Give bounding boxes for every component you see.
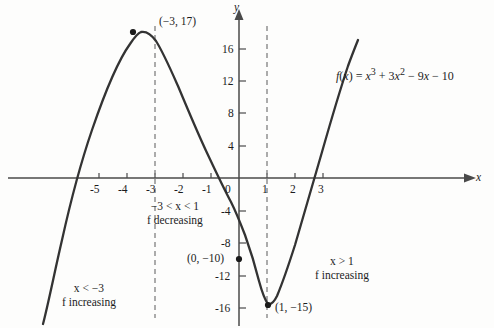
- annotation-middle-line1: −3 < x < 1: [147, 199, 203, 213]
- annotation-middle-interval: −3 < x < 1 f decreasing: [147, 199, 203, 228]
- local-minimum-point: [265, 302, 271, 308]
- annotation-middle-line2: f decreasing: [147, 213, 203, 227]
- y-axis: [235, 9, 244, 326]
- x-tick-label-neg4: -4: [118, 182, 128, 196]
- y-tick-label-12: 12: [222, 74, 234, 88]
- x-tick-label-neg2: -2: [174, 182, 184, 196]
- annotation-left-line2: f increasing: [62, 295, 116, 309]
- x-tick-label-neg5: -5: [90, 182, 100, 196]
- annotation-right-line2: f increasing: [315, 268, 369, 282]
- equation-equals: =: [353, 69, 366, 83]
- equation-minus2: − 10: [429, 69, 454, 83]
- y-tick-label-neg8: -8: [221, 236, 231, 250]
- equation-plus1: + 3: [376, 69, 395, 83]
- y-tick-label-4: 4: [228, 139, 234, 153]
- x-tick-label-3: 3: [318, 182, 324, 196]
- y-intercept-point: [236, 256, 242, 262]
- function-equation: f(x) = x3 + 3x2 − 9x − 10: [336, 66, 454, 84]
- annotation-right-line1: x > 1: [315, 254, 369, 268]
- x-tick-label-1: 1: [262, 182, 268, 196]
- x-tick-label-0: 0: [225, 182, 231, 196]
- y-tick-label-neg12: -12: [215, 269, 230, 283]
- cubic-function-graph-figure: x y -5 -4 -3 -2 -1 0 1 2 3 16 12 8 4 -4 …: [0, 0, 494, 328]
- local-maximum-point: [130, 29, 136, 35]
- y-tick-label-neg16: -16: [215, 301, 230, 315]
- y-axis-label: y: [234, 0, 239, 14]
- x-axis-label: x: [476, 170, 481, 184]
- plot-canvas: [0, 0, 494, 328]
- x-tick-label-2: 2: [290, 182, 296, 196]
- annotation-left-line1: x < −3: [62, 281, 116, 295]
- y-intercept-label: (0, −10): [187, 251, 224, 265]
- local-maximum-label: (−3, 17): [159, 14, 196, 28]
- x-tick-label-neg3: -3: [146, 182, 156, 196]
- annotation-right-interval: x > 1 f increasing: [315, 254, 369, 283]
- annotation-left-interval: x < −3 f increasing: [62, 281, 116, 310]
- y-tick-label-16: 16: [222, 42, 234, 56]
- y-tick-label-8: 8: [228, 106, 234, 120]
- y-tick-label-neg4: -4: [221, 204, 231, 218]
- equation-minus1: − 9: [405, 69, 424, 83]
- local-minimum-label: (1, −15): [275, 300, 312, 314]
- x-tick-label-neg1: -1: [202, 182, 212, 196]
